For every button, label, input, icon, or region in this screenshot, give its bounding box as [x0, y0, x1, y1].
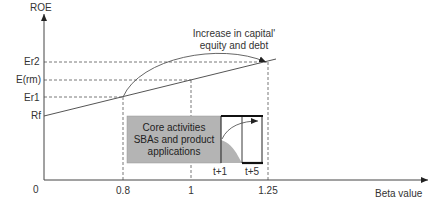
box-label-3: applications [148, 146, 201, 157]
tick-beta-125: 1.25 [258, 185, 278, 196]
label-t5: t+5 [245, 166, 260, 177]
roe-beta-diagram: Core activities SBAs and product applica… [0, 0, 441, 209]
tick-erm: E(rm) [16, 74, 41, 85]
core-activities-inset: Core activities SBAs and product applica… [127, 116, 263, 163]
tick-beta-1: 1 [188, 185, 194, 196]
annotation-line-1: Increase in capital' [193, 28, 276, 39]
tick-er1: Er1 [24, 92, 40, 103]
tick-origin: 0 [33, 184, 39, 195]
box-label-1: Core activities [143, 122, 206, 133]
y-axis-label: ROE [30, 2, 52, 13]
security-market-line [44, 59, 276, 116]
annotation-line-2: equity and debt [200, 40, 269, 51]
shaded-decline [221, 140, 242, 163]
tick-rf: Rf [31, 110, 41, 121]
x-axis-label: Beta value [375, 188, 423, 199]
tick-beta-08: 0.8 [116, 185, 130, 196]
tick-er2: Er2 [24, 56, 40, 67]
increase-arrow [123, 53, 266, 97]
growth-arrow [222, 121, 258, 139]
box-label-2: SBAs and product [134, 134, 215, 145]
label-t1: t+1 [213, 166, 228, 177]
